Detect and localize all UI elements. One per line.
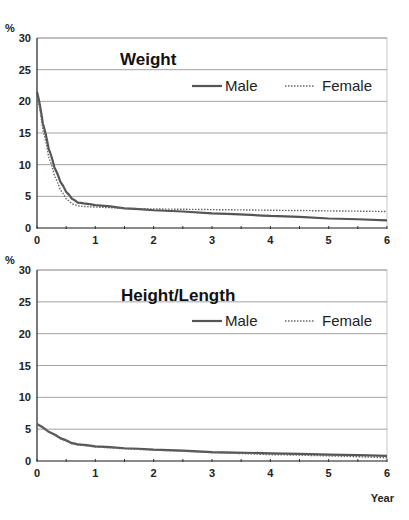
legend-male-label: Male: [225, 312, 258, 329]
x-tick-label: 1: [92, 467, 98, 479]
x-tick-label: 2: [151, 467, 157, 479]
height-length-chart: 0510152025300123456%YearHeight/LengthMal…: [0, 0, 409, 520]
y-tick-label: 25: [19, 296, 31, 308]
height-length-chart-svg: 0510152025300123456%YearHeight/LengthMal…: [0, 0, 409, 520]
x-tick-label: 4: [267, 467, 274, 479]
legend-female-label: Female: [322, 312, 372, 329]
y-unit-label: %: [5, 254, 15, 266]
y-tick-label: 15: [19, 360, 31, 372]
x-tick-label: 0: [34, 467, 40, 479]
y-tick-label: 20: [19, 328, 31, 340]
x-tick-label: 3: [209, 467, 215, 479]
x-tick-label: 6: [384, 467, 390, 479]
y-tick-label: 10: [19, 391, 31, 403]
female-series-line: [37, 425, 387, 458]
chart-title: Height/Length: [121, 286, 235, 305]
y-tick-label: 30: [19, 264, 31, 276]
y-tick-label: 0: [25, 455, 31, 467]
x-tick-label: 5: [326, 467, 332, 479]
x-axis-label: Year: [371, 492, 395, 504]
y-tick-label: 5: [25, 423, 31, 435]
